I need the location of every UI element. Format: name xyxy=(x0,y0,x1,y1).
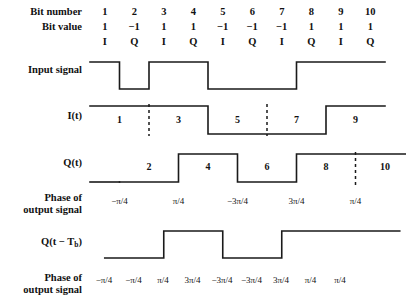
phase-lower-value: π/4 xyxy=(323,275,357,285)
i-channel-bit-label: 7 xyxy=(282,114,312,125)
phase-upper-value: 3π/4 xyxy=(277,196,317,206)
bit-channel-cell: I xyxy=(149,36,179,47)
bit-number-cell: 2 xyxy=(119,6,149,17)
input-signal-path xyxy=(90,62,385,89)
bit-value-cell: 1 xyxy=(149,21,179,32)
bit-channel-cell: Q xyxy=(119,36,149,47)
phase-lower-label-line2: output signal xyxy=(23,284,82,295)
i-channel-bit-label: 1 xyxy=(105,114,135,125)
q-delayed-path xyxy=(105,231,400,258)
phase-upper-label-line1: Phase of xyxy=(44,192,82,203)
bit-number-cell: 10 xyxy=(355,6,385,17)
bit-value-cell: −1 xyxy=(119,21,149,32)
bit-number-cell: 4 xyxy=(178,6,208,17)
q-channel-bit-label: 10 xyxy=(370,161,400,172)
input-signal-waveform xyxy=(0,56,406,96)
phase-upper-value: −3π/4 xyxy=(218,196,258,206)
bit-number-cell: 6 xyxy=(237,6,267,17)
bit-value-cell: 1 xyxy=(355,21,385,32)
bit-value-cell: −1 xyxy=(237,21,267,32)
bit-value-cell: 1 xyxy=(296,21,326,32)
bit-value-cell: 1 xyxy=(326,21,356,32)
i-channel-bit-label: 5 xyxy=(223,114,253,125)
phase-upper-label: Phase of output signal xyxy=(0,192,82,215)
phase-lower-label-line1: Phase of xyxy=(44,272,82,283)
bit-number-cell: 7 xyxy=(267,6,297,17)
q-channel-bit-label: 4 xyxy=(193,161,223,172)
bit-channel-cell: I xyxy=(326,36,356,47)
q-channel-bit-label: 2 xyxy=(134,161,164,172)
bit-value-cell: −1 xyxy=(267,21,297,32)
timing-diagram-figure: Bit number Bit value 12345678910 1−111−1… xyxy=(0,0,406,306)
bit-value-row: 1−111−1−1−1111 xyxy=(0,21,406,35)
bit-channel-cell: Q xyxy=(296,36,326,47)
bit-channel-cell: Q xyxy=(178,36,208,47)
bit-number-cell: 9 xyxy=(326,6,356,17)
bit-channel-cell: Q xyxy=(355,36,385,47)
phase-upper-value: −π/4 xyxy=(100,196,140,206)
bit-value-cell: 1 xyxy=(90,21,120,32)
bit-channel-row: IQIQIQIQIQ xyxy=(0,36,406,50)
bit-number-cell: 8 xyxy=(296,6,326,17)
phase-upper-label-line2: output signal xyxy=(23,204,82,215)
bit-channel-cell: I xyxy=(208,36,238,47)
q-channel-bit-label: 6 xyxy=(252,161,282,172)
bit-number-cell: 3 xyxy=(149,6,179,17)
i-channel-bit-label: 3 xyxy=(164,114,194,125)
i-channel-bit-label: 9 xyxy=(341,114,371,125)
bit-channel-cell: I xyxy=(90,36,120,47)
bit-value-cell: −1 xyxy=(208,21,238,32)
bit-number-row: 12345678910 xyxy=(0,6,406,20)
bit-number-cell: 5 xyxy=(208,6,238,17)
bit-channel-cell: Q xyxy=(237,36,267,47)
q-delayed-waveform xyxy=(0,226,406,266)
phase-upper-value: π/4 xyxy=(159,196,199,206)
q-channel-bit-label: 8 xyxy=(311,161,341,172)
bit-value-cell: 1 xyxy=(178,21,208,32)
bit-channel-cell: I xyxy=(267,36,297,47)
bit-number-cell: 1 xyxy=(90,6,120,17)
phase-lower-label: Phase of output signal xyxy=(0,272,82,295)
phase-upper-value: π/4 xyxy=(336,196,376,206)
